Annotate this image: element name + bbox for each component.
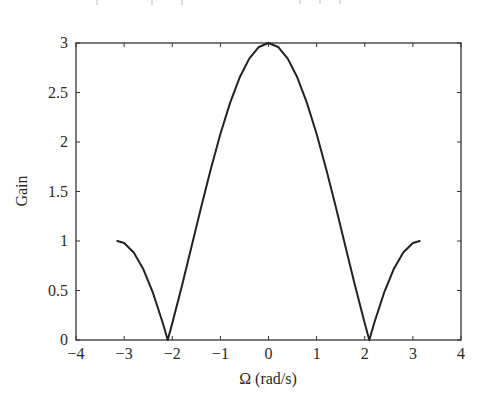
x-axis-tick-labels: −4−3−2−101234 — [67, 345, 465, 362]
x-tick-label: 0 — [265, 345, 273, 362]
x-tick-label: −2 — [164, 345, 181, 362]
y-tick-label: 0.5 — [48, 282, 68, 299]
x-tick-label: −1 — [212, 345, 229, 362]
cropped-figure-ticks — [97, 0, 340, 5]
y-tick-label: 2.5 — [48, 84, 68, 101]
y-tick-label: 2 — [60, 133, 68, 150]
y-axis-tick-labels: 00.511.522.53 — [48, 34, 68, 348]
x-tick-label: −3 — [116, 345, 133, 362]
plot-frame — [76, 43, 461, 340]
y-axis-ticks — [76, 43, 461, 340]
x-tick-label: 1 — [313, 345, 321, 362]
x-axis-title: Ω (rad/s) — [239, 370, 297, 388]
y-tick-label: 3 — [60, 34, 68, 51]
x-tick-label: 4 — [457, 345, 465, 362]
x-axis-ticks — [76, 43, 461, 340]
y-axis-title: Gain — [13, 175, 30, 206]
y-tick-label: 0 — [60, 331, 68, 348]
y-tick-label: 1 — [60, 232, 68, 249]
x-tick-label: −4 — [67, 345, 84, 362]
y-tick-label: 1.5 — [48, 183, 68, 200]
gain-chart: −4−3−2−101234 00.511.522.53 Ω (rad/s) Ga… — [0, 0, 484, 411]
x-tick-label: 3 — [409, 345, 417, 362]
gain-curve — [117, 43, 419, 340]
x-tick-label: 2 — [361, 345, 369, 362]
